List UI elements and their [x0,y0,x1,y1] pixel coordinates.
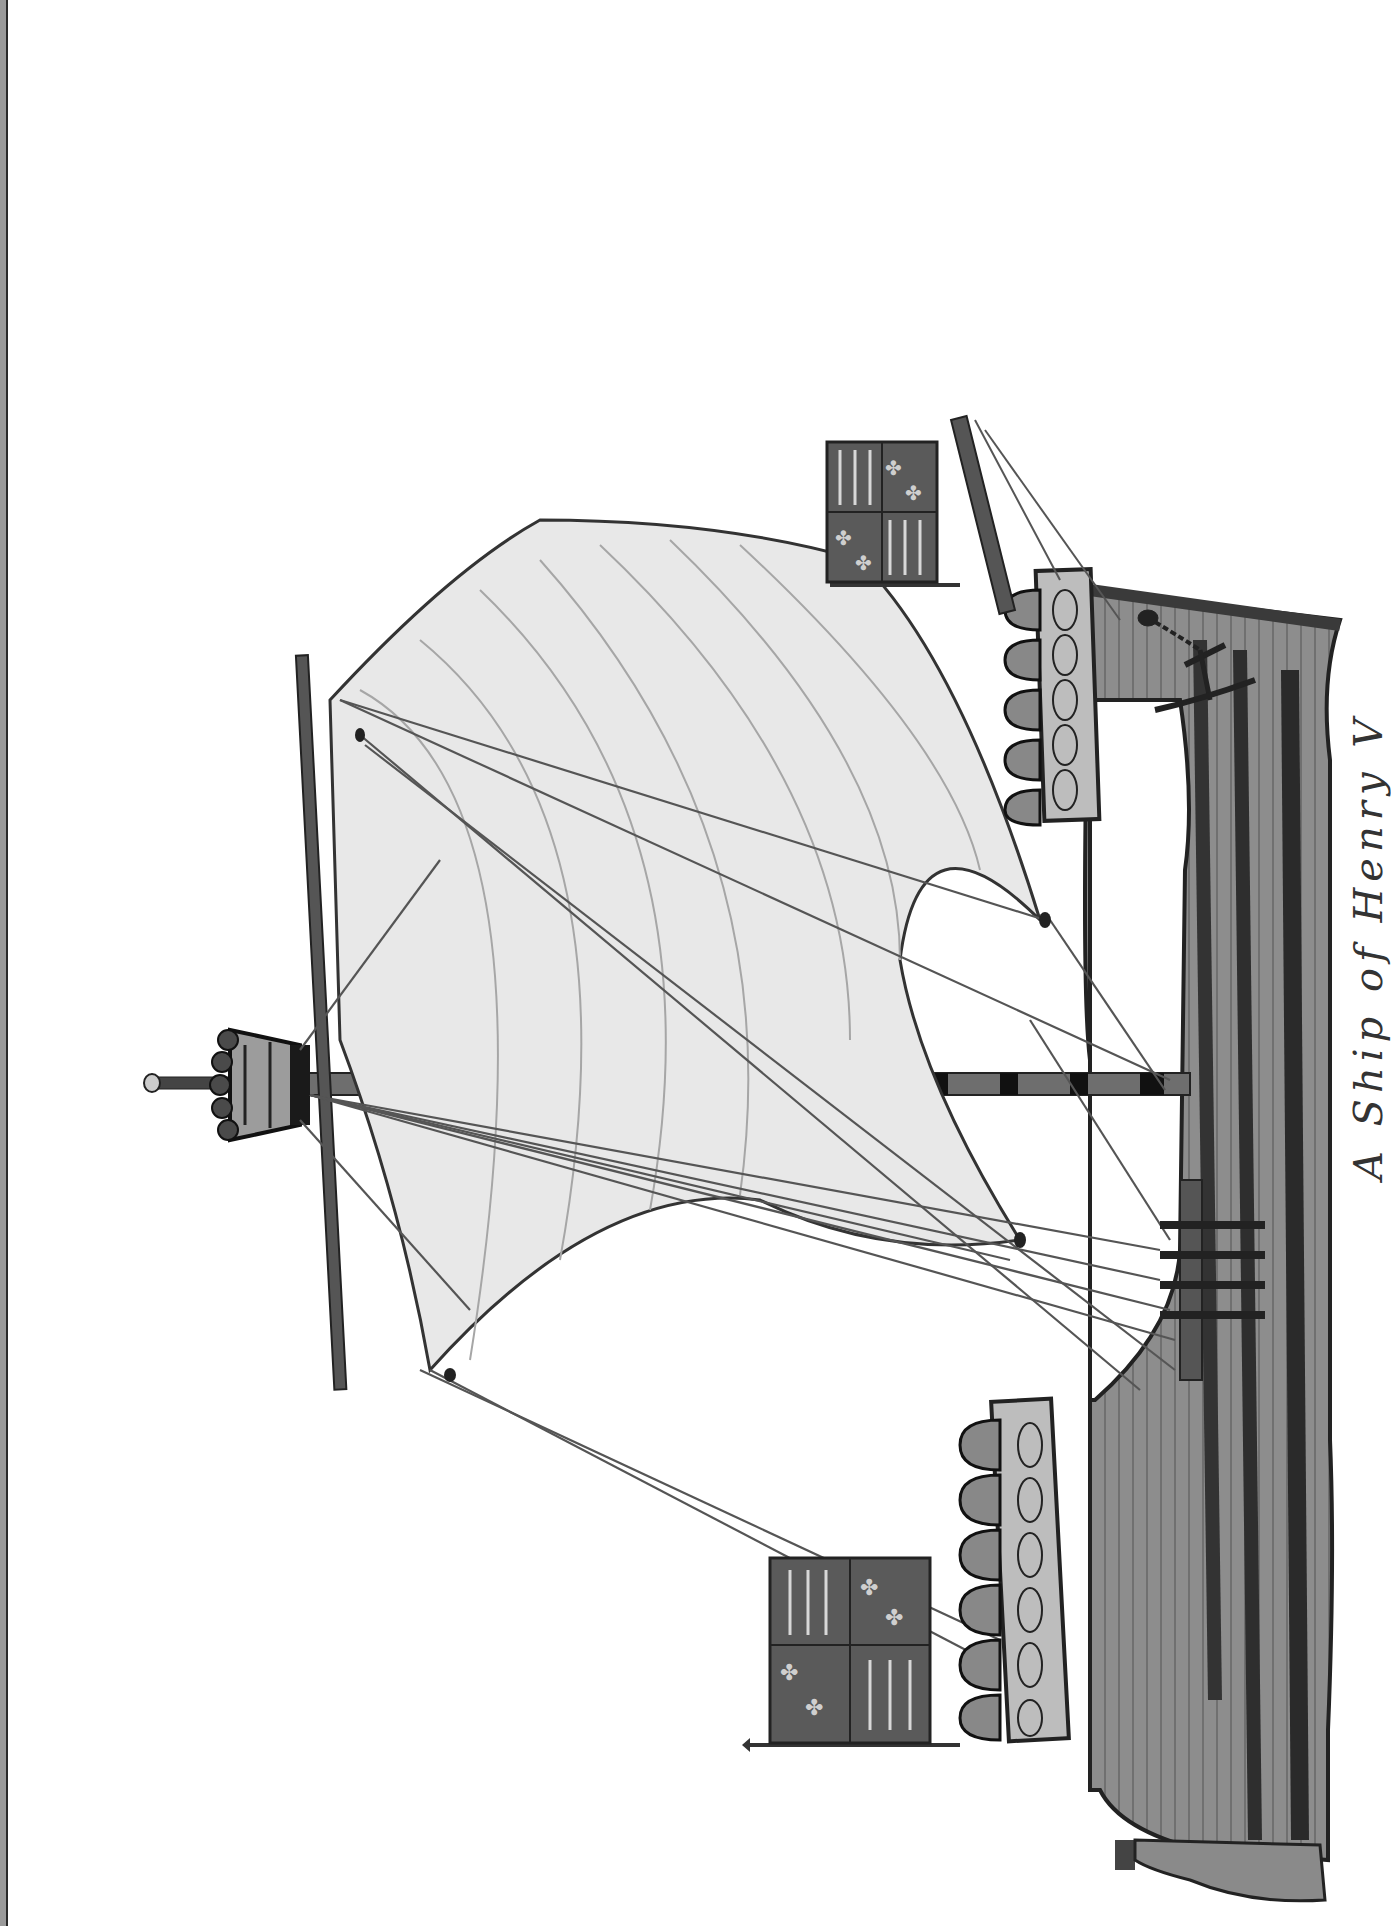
aft-castle [960,1399,1069,1742]
fore-castle [1005,569,1099,825]
svg-text:✤: ✤ [855,551,872,575]
caption: A Ship of Henry V [1345,713,1391,1180]
svg-text:✤: ✤ [860,1575,878,1600]
svg-text:✤: ✤ [885,456,902,480]
fore-flag: ✤✤ ✤✤ [827,442,960,585]
svg-text:✤: ✤ [780,1660,798,1685]
svg-text:✤: ✤ [905,481,922,505]
crows-nest [210,1030,310,1140]
aft-flag: ✤✤ ✤✤ [742,1558,960,1752]
rudder [1115,1840,1325,1901]
svg-text:✤: ✤ [835,526,852,550]
svg-text:✤: ✤ [885,1605,903,1630]
svg-text:✤: ✤ [805,1695,823,1720]
